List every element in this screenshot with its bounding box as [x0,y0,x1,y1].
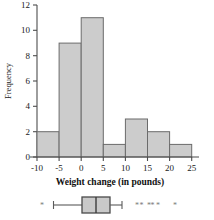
x-axis-ticks [37,157,192,161]
table-row [170,144,192,157]
y-axis-ticks [33,5,37,157]
boxplot: * * * * * * * [40,197,177,213]
outlier-marker: * [135,201,139,210]
chart-canvas: 0 2 4 6 8 10 12 Frequency [0,0,214,220]
outlier-marker: * [151,201,155,210]
x-tick-label-20: 20 [165,163,175,173]
y-tick-label-2: 2 [26,127,31,137]
x-tick-label-neg10: -10 [31,163,43,173]
table-row [148,132,170,157]
y-tick-label-10: 10 [21,25,31,35]
y-axis: 0 2 4 6 8 10 12 Frequency [3,0,37,162]
table-row [125,119,147,157]
outlier-marker: * [140,201,144,210]
table-row [81,18,103,157]
x-tick-label-neg5: -5 [55,163,63,173]
y-axis-tick-labels: 0 2 4 6 8 10 12 [21,0,31,162]
x-axis: -10 -5 0 5 10 15 20 25 Weight change (in… [30,157,199,188]
y-tick-label-6: 6 [26,76,31,86]
y-axis-title: Frequency [3,62,13,99]
table-row [37,132,59,157]
x-tick-label-10: 10 [121,163,131,173]
y-tick-label-8: 8 [26,51,31,61]
x-axis-title: Weight change (in pounds) [56,177,165,188]
histogram-bars [37,18,192,157]
y-tick-label-4: 4 [26,101,31,111]
y-tick-label-12: 12 [21,0,30,10]
x-tick-label-5: 5 [101,163,106,173]
x-tick-label-0: 0 [79,163,84,173]
x-tick-label-15: 15 [143,163,153,173]
table-row [103,144,125,157]
x-axis-tick-labels: -10 -5 0 5 10 15 20 25 [31,163,197,173]
outlier-marker: * [173,201,177,210]
x-tick-label-25: 25 [187,163,197,173]
table-row [59,43,81,157]
y-tick-label-0: 0 [26,152,31,162]
outlier-marker: * [40,201,44,210]
histogram-boxplot-figure: 0 2 4 6 8 10 12 Frequency [0,0,214,220]
outlier-marker: * [156,201,160,210]
